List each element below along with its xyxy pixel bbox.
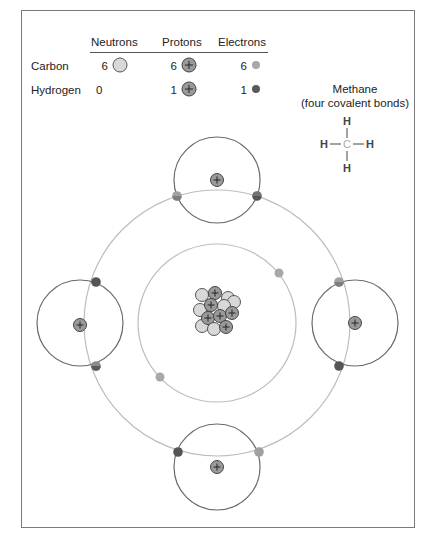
svg-text:H: H (320, 138, 328, 150)
legend-hydrogen-electron-icon (252, 85, 260, 93)
methane-structure: H H H H C (320, 115, 374, 174)
hydrogen-proton-top (211, 174, 224, 187)
legend-carbon-electron-icon (252, 61, 260, 69)
hydrogen-proton-bottom (211, 461, 224, 474)
inner-electron-2 (156, 373, 165, 382)
legend-proton-icon-hydrogen (182, 82, 196, 96)
legend-proton-icon-carbon (182, 58, 196, 72)
shared-electron-top-right (252, 191, 262, 201)
hydrogen-proton-left (74, 319, 87, 332)
shared-electron-right-top (334, 277, 344, 287)
legend-neutron-icon (113, 58, 127, 72)
svg-text:C: C (343, 138, 351, 150)
svg-text:H: H (343, 162, 351, 174)
shared-electron-left-bottom (91, 361, 101, 371)
hydrogen-proton-right (349, 317, 362, 330)
shared-electron-left-top (91, 277, 101, 287)
svg-text:H: H (366, 138, 374, 150)
shared-electron-bottom-left (173, 447, 183, 457)
shared-electron-right-bottom (334, 361, 344, 371)
shared-electron-top-left (172, 191, 182, 201)
carbon-nucleus (194, 287, 241, 336)
methane-atom-diagram: H H H H C (0, 0, 427, 539)
inner-electron-1 (275, 269, 284, 278)
svg-text:H: H (343, 115, 351, 127)
shared-electron-bottom-right (254, 447, 264, 457)
